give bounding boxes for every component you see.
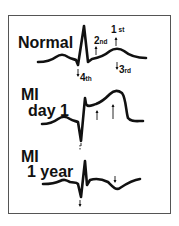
panel-title-line-1: MI <box>21 86 39 103</box>
q-wave-arrow <box>79 200 82 207</box>
annotation-2nd: 2nd <box>94 35 108 55</box>
annotation-3rd: 3rd <box>116 62 132 75</box>
annotation-1st: 1st <box>111 24 125 46</box>
st-elevation-arrow-1 <box>96 110 99 120</box>
st-elevation-arrow-2 <box>112 104 115 119</box>
panel-mi-1-year: MI 1 year <box>21 145 140 207</box>
svg-text:1st: 1st <box>111 24 125 35</box>
panel-mi-day-1: MI day 1 <box>21 86 143 146</box>
t-wave-inversion-arrow <box>114 176 117 183</box>
svg-text:4th: 4th <box>80 72 92 83</box>
annotation-4th: 4th <box>77 69 92 83</box>
ecg-diagram: Normal 2nd 1st 3rd 4th MI day 1 <box>0 0 179 226</box>
svg-text:3rd: 3rd <box>119 64 131 75</box>
panel-title-normal: Normal <box>18 34 73 51</box>
svg-text:2nd: 2nd <box>94 35 108 46</box>
panel-normal: Normal 2nd 1st 3rd 4th <box>18 24 146 83</box>
panel-title-line-2: 1 year <box>27 163 73 180</box>
